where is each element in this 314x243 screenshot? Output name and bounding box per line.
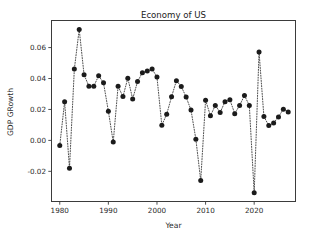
chart-title: Economy of US	[141, 10, 206, 20]
y-tick-label: 0.02	[30, 105, 46, 114]
data-point-marker	[266, 123, 271, 128]
plot-area-frame	[52, 21, 296, 202]
data-point-marker	[184, 95, 189, 100]
data-point-marker	[111, 140, 116, 145]
data-point-marker	[218, 110, 223, 115]
x-tick-label: 2020	[245, 206, 264, 215]
data-point-marker	[286, 109, 291, 114]
y-tick-label: 0.00	[30, 136, 46, 145]
data-point-marker	[232, 111, 237, 116]
data-point-marker	[281, 107, 286, 112]
data-point-marker	[57, 143, 62, 148]
data-point-marker	[223, 99, 228, 104]
data-point-marker	[179, 84, 184, 89]
data-point-marker	[242, 93, 247, 98]
data-point-marker	[72, 67, 77, 72]
data-point-marker	[276, 114, 281, 119]
data-point-marker	[125, 76, 130, 81]
data-point-marker	[227, 97, 232, 102]
x-axis-label: Year	[164, 221, 182, 230]
data-point-marker	[261, 114, 266, 119]
data-point-marker	[82, 72, 87, 77]
x-tick-label: 2010	[196, 206, 215, 215]
data-point-marker	[271, 120, 276, 125]
data-point-marker	[116, 84, 121, 89]
data-point-marker	[130, 96, 135, 101]
y-tick-label: 0.06	[30, 43, 46, 52]
data-point-marker	[247, 103, 252, 108]
data-point-marker	[252, 190, 257, 195]
gdp-growth-markers	[57, 27, 290, 195]
data-point-marker	[213, 103, 218, 108]
data-point-marker	[150, 67, 155, 72]
economy-line-chart: Economy of US -0.020.000.020.040.06 1980…	[0, 0, 314, 243]
data-point-marker	[145, 69, 150, 74]
data-point-marker	[198, 178, 203, 183]
data-point-marker	[154, 74, 159, 79]
data-point-marker	[237, 103, 242, 108]
x-tick-label: 2000	[148, 206, 167, 215]
chart-figure: Economy of US -0.020.000.020.040.06 1980…	[0, 0, 314, 243]
data-point-marker	[257, 50, 262, 55]
y-tick-label: 0.04	[30, 74, 46, 83]
data-point-marker	[174, 78, 179, 83]
gdp-growth-line	[60, 29, 288, 192]
data-point-marker	[140, 70, 145, 75]
data-point-marker	[164, 112, 169, 117]
data-point-marker	[96, 73, 101, 78]
data-point-marker	[135, 79, 140, 84]
x-axis-ticks: 19801990200020102020	[51, 202, 264, 216]
data-point-marker	[159, 123, 164, 128]
data-point-marker	[120, 94, 125, 99]
data-point-marker	[106, 109, 111, 114]
data-point-marker	[169, 94, 174, 99]
data-point-marker	[77, 27, 82, 32]
data-point-marker	[67, 166, 72, 171]
data-point-marker	[62, 99, 67, 104]
y-axis-ticks: -0.020.000.020.040.06	[27, 43, 51, 176]
y-axis-label: GDP GRowth	[6, 88, 15, 136]
data-point-marker	[86, 84, 91, 89]
data-point-marker	[189, 108, 194, 113]
data-point-marker	[193, 137, 198, 142]
data-point-marker	[208, 113, 213, 118]
y-tick-label: -0.02	[27, 167, 46, 176]
data-point-marker	[203, 98, 208, 103]
x-tick-label: 1980	[51, 206, 70, 215]
data-point-marker	[101, 80, 106, 85]
x-tick-label: 1990	[99, 206, 118, 215]
data-point-marker	[91, 84, 96, 89]
